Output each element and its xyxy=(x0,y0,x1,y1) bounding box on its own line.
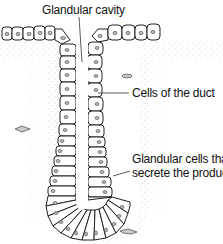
lumen xyxy=(76,42,88,210)
secretory-cells xyxy=(46,196,130,240)
duct-cells-right xyxy=(87,42,112,197)
gland-diagram xyxy=(0,0,223,244)
label-glandular-cells-line1: Glandular cells that xyxy=(132,153,223,166)
label-glandular-cells-line2: secrete the product xyxy=(132,167,223,180)
label-glandular-cavity: Glandular cavity xyxy=(42,4,125,17)
label-cells-of-duct: Cells of the duct xyxy=(132,87,215,100)
